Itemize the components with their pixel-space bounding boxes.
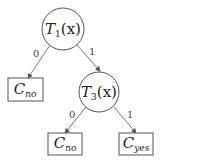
edge-label-0: 0	[33, 48, 39, 59]
edge-t3-cyes: 1	[114, 107, 136, 133]
node-t3-label: T3(x)	[81, 83, 117, 102]
node-t3: T3(x)	[79, 72, 119, 112]
edge-label-1: 1	[89, 46, 95, 57]
edge-t3-cno: 0	[65, 107, 86, 133]
edge-t1-t3: 1	[77, 45, 100, 71]
leaf-c-yes: Cyes	[119, 133, 153, 155]
edge-label-1: 1	[127, 109, 133, 120]
leaf-c-no-bottom: Cno	[48, 133, 82, 155]
edge-t1-cno: 0	[28, 45, 50, 78]
edge-label-0: 0	[69, 109, 75, 120]
node-t1: T1(x)	[42, 8, 84, 50]
node-t1-label: T1(x)	[45, 20, 81, 39]
leaf-c-no-left: Cno	[8, 78, 43, 101]
decision-tree-diagram: 0 1 0 1 T1(x) T3(x) Cno Cno Cyes	[0, 0, 197, 165]
